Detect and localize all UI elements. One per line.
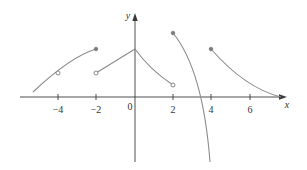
open-circle-marker [94,71,98,75]
piecewise-function-graph: −4 −2 0 2 4 6 x y [0,0,307,170]
x-axis-label: x [284,99,290,110]
filled-dot-marker [171,31,175,35]
tick-label-4: 4 [209,104,214,115]
y-axis-arrow-icon [132,13,137,21]
open-circle-marker [171,83,175,87]
open-circle-marker [56,71,60,75]
curve-piece-4 [211,49,281,97]
y-axis-label: y [125,10,131,21]
tick-label-2: 2 [171,104,176,115]
tick-label-neg4: −4 [53,104,64,115]
curve-piece-3 [173,33,210,162]
tick-label-0: 0 [128,101,133,112]
filled-dot-marker [94,47,98,51]
curve-piece-1 [33,49,96,92]
tick-label-6: 6 [248,104,253,115]
curve-piece-2 [96,49,173,85]
filled-dot-marker [209,47,213,51]
tick-label-neg2: −2 [91,104,102,115]
